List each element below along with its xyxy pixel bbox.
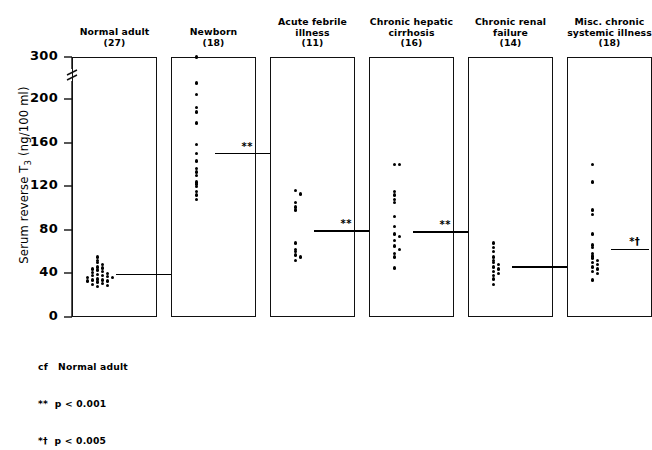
panel-header-chronic-hepatic-cirrhosis: Chronic hepaticcirrhosis(16): [369, 17, 454, 49]
mean-line-misc-chronic-systemic-illness: [611, 249, 648, 251]
data-point: [195, 110, 198, 113]
significance-label-newborn: **: [242, 141, 253, 152]
y-tick-label-300: 300: [14, 48, 58, 63]
data-point: [294, 208, 297, 211]
data-point: [86, 279, 89, 282]
panel-header-acute-febrile-illness: Acute febrileillness(11): [270, 17, 355, 49]
mean-line-acute-febrile-illness: [314, 230, 369, 232]
y-tick-label-120: 120: [14, 177, 58, 192]
panel-box-acute-febrile-illness: [270, 57, 355, 317]
panel-count-chronic-renal-failure: (14): [468, 38, 553, 49]
data-point: [492, 270, 495, 273]
panel-box-chronic-hepatic-cirrhosis: [369, 57, 454, 317]
footnote-line-1: ** p < 0.001: [38, 398, 128, 410]
data-point: [596, 267, 599, 270]
panel-header-misc-chronic-systemic-illness: Misc. chronicsystemic illness(18): [567, 17, 652, 49]
data-point: [393, 255, 396, 258]
panel-count-normal-adult: (27): [72, 38, 157, 49]
data-point: [591, 208, 594, 211]
panel-count-newborn: (18): [171, 38, 256, 49]
data-point: [393, 232, 396, 235]
data-point: [195, 159, 198, 162]
y-tick-label-40: 40: [14, 264, 58, 279]
footnote-legend: cf Normal adult ** p < 0.001 *† p < 0.00…: [38, 336, 128, 450]
data-point: [591, 270, 594, 273]
panel-title-chronic-hepatic-cirrhosis: Chronic hepaticcirrhosis: [370, 16, 453, 38]
mean-line-chronic-renal-failure: [512, 266, 567, 268]
y-tick-label-80: 80: [14, 221, 58, 236]
data-point: [195, 55, 198, 58]
y-axis-title-text: Serum reverse T3 (ng/100 ml): [17, 86, 31, 263]
panel-header-chronic-renal-failure: Chronic renalfailure(14): [468, 17, 553, 49]
data-point: [96, 280, 99, 283]
panel-title-acute-febrile-illness: Acute febrileillness: [278, 16, 347, 38]
data-point: [492, 277, 495, 280]
data-point: [492, 265, 495, 268]
panel-header-normal-adult: Normal adult(27): [72, 27, 157, 48]
panel-title-normal-adult: Normal adult: [80, 26, 150, 37]
y-tick-label-160: 160: [14, 134, 58, 149]
panel-box-misc-chronic-systemic-illness: [567, 57, 652, 317]
y-tick-label-200: 200: [14, 90, 58, 105]
data-point: [101, 282, 104, 285]
footnote-line-2: *† p < 0.005: [38, 435, 128, 447]
y-axis-subscript: 3: [23, 160, 33, 166]
panel-box-chronic-renal-failure: [468, 57, 553, 317]
y-tick-label-0: 0: [14, 308, 58, 323]
data-point: [591, 278, 594, 281]
data-point: [393, 193, 396, 196]
panel-count-chronic-hepatic-cirrhosis: (16): [369, 38, 454, 49]
significance-label-chronic-hepatic-cirrhosis: **: [440, 219, 451, 230]
data-point: [393, 244, 396, 247]
panel-box-normal-adult: [72, 57, 157, 317]
data-point: [492, 241, 495, 244]
data-point: [591, 256, 594, 259]
data-point: [195, 121, 198, 124]
data-point: [492, 246, 495, 249]
mean-line-normal-adult: [116, 274, 171, 276]
data-point: [294, 241, 297, 244]
data-point: [299, 192, 302, 195]
data-point: [91, 278, 94, 281]
data-point: [591, 180, 594, 183]
panel-count-misc-chronic-systemic-illness: (18): [567, 38, 652, 49]
data-point: [101, 270, 104, 273]
mean-line-chronic-hepatic-cirrhosis: [413, 231, 468, 233]
panel-title-misc-chronic-systemic-illness: Misc. chronicsystemic illness: [567, 16, 652, 38]
panel-title-chronic-renal-failure: Chronic renalfailure: [475, 16, 546, 38]
data-point: [591, 265, 594, 268]
data-point: [497, 267, 500, 270]
data-point: [299, 255, 302, 258]
panel-count-acute-febrile-illness: (11): [270, 38, 355, 49]
data-point: [195, 193, 198, 196]
data-point: [591, 246, 594, 249]
mean-line-newborn: [215, 153, 270, 155]
data-point: [96, 268, 99, 271]
data-point: [393, 266, 396, 269]
data-point: [294, 253, 297, 256]
data-point: [106, 279, 109, 282]
panel-title-newborn: Newborn: [190, 26, 238, 37]
panel-box-newborn: [171, 57, 256, 317]
data-point: [591, 232, 594, 235]
footnote-line-0: cf Normal adult: [38, 361, 128, 373]
data-point: [195, 81, 198, 84]
data-point: [195, 185, 198, 188]
significance-label-acute-febrile-illness: **: [341, 218, 352, 229]
panel-header-newborn: Newborn(18): [171, 27, 256, 48]
significance-label-misc-chronic-systemic-illness: *†: [629, 236, 640, 247]
